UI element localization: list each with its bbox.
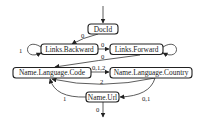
node-links-forward: Links.Forward xyxy=(110,44,163,55)
node-name-language-code: Name.Language.Code xyxy=(13,68,91,79)
node-label-name-url: Name.Url xyxy=(88,93,117,102)
edge-label-country-url: 0,1 xyxy=(142,95,150,102)
edge-label-backward-self: 1 xyxy=(19,47,22,54)
edge-country-code xyxy=(52,78,155,84)
edge-links-forward-self xyxy=(163,44,177,55)
node-label-links-backward: Links.Backward xyxy=(45,45,94,54)
edge-label-country-code: 2 xyxy=(100,78,103,85)
node-label-name-language-country: Name.Language.Country xyxy=(114,68,189,77)
edge-docid-links-backward xyxy=(72,34,98,44)
edge-label-forward-code: 0 xyxy=(101,53,105,60)
node-name-language-country: Name.Language.Country xyxy=(110,68,192,79)
state-diagram: 0 1 0 0 0,1,2 2 1 0,1 0 DocId Links.Back… xyxy=(0,0,204,120)
edge-label-backward-forward: 0 xyxy=(101,41,105,48)
node-docid: DocId xyxy=(88,24,118,34)
edge-label-code-country: 0,1,2 xyxy=(92,64,105,71)
edge-links-backward-self xyxy=(27,44,41,55)
edge-label-url-code: 1 xyxy=(63,95,66,102)
node-name-url: Name.Url xyxy=(86,92,119,102)
node-links-backward: Links.Backward xyxy=(41,44,98,55)
edge-label-url-end: 0 xyxy=(96,106,100,113)
node-label-docid: DocId xyxy=(94,25,113,34)
node-label-name-language-code: Name.Language.Code xyxy=(19,68,86,77)
node-label-links-forward: Links.Forward xyxy=(115,45,159,54)
